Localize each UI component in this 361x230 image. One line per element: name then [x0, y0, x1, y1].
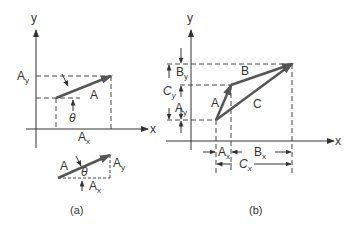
y-axis-label: y — [31, 11, 37, 25]
inset-theta-label: θ — [81, 165, 88, 179]
inset-triangle: A θ Ay Ax — [58, 155, 125, 195]
by-label: By — [176, 65, 188, 81]
x-axis-label-b: x — [335, 134, 341, 148]
inset-ay-label: Ay — [113, 156, 125, 172]
ax-label: Ax — [78, 130, 90, 146]
bx-label: Bx — [254, 145, 266, 161]
caption-a: (a) — [70, 204, 83, 216]
cy-label: Cy — [163, 84, 177, 100]
panel-b: y x A B C By Cy Ay — [163, 11, 341, 216]
ay-label-b: Ay — [175, 101, 187, 117]
y-axis-label-b: y — [187, 11, 193, 25]
cx-label: Cx — [239, 157, 253, 173]
panel-a: y x A θ Ay Ax A θ Ay Ax — [17, 11, 156, 216]
inset-ax-label: Ax — [89, 179, 101, 195]
vector-a-label-b: A — [211, 96, 219, 110]
theta-label: θ — [69, 111, 76, 125]
vector-c-label: C — [253, 97, 262, 111]
vector-a-label: A — [90, 88, 98, 102]
ax-label-b: Ax — [218, 145, 230, 161]
ay-label: Ay — [17, 69, 29, 85]
vector-b-label: B — [241, 64, 249, 78]
inset-vector-a-label: A — [60, 159, 68, 173]
x-axis-label: x — [150, 122, 156, 136]
vector-components-figure: y x A θ Ay Ax A θ Ay Ax — [0, 0, 361, 230]
caption-b: (b) — [249, 204, 262, 216]
